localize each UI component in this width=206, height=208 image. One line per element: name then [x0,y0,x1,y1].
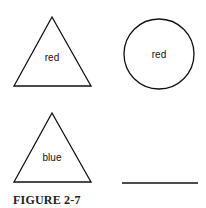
figure-caption: FIGURE 2-7 [13,193,81,208]
triangle-bottom-left [14,113,91,182]
figure-canvas [0,0,206,208]
circle-label: red [152,49,166,60]
triangle-top-label: red [45,52,59,63]
triangle-bottom-label: blue [43,152,62,163]
